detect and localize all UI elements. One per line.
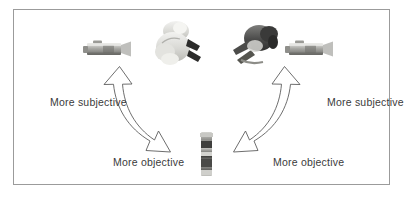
arrow-left — [104, 67, 171, 153]
figure-frame: More subjective More subjective More obj… — [13, 9, 390, 185]
upright-object-icon — [196, 130, 218, 178]
camcorder-right-image — [283, 37, 339, 61]
camcorder-left-image — [81, 37, 137, 61]
figure-dark-image — [223, 22, 285, 72]
figure-light-image — [148, 19, 210, 71]
camcorder-icon — [81, 37, 137, 61]
camcorder-icon — [283, 37, 339, 61]
label-more-objective-left: More objective — [113, 157, 184, 168]
person-figure-icon — [223, 22, 285, 72]
label-more-subjective-right: More subjective — [327, 97, 404, 108]
object-center-image — [196, 130, 218, 178]
label-more-subjective-left: More subjective — [50, 97, 127, 108]
person-figure-icon — [148, 19, 210, 71]
arrow-right — [234, 67, 301, 153]
label-more-objective-right: More objective — [273, 157, 344, 168]
figure-root: More subjective More subjective More obj… — [0, 0, 405, 198]
